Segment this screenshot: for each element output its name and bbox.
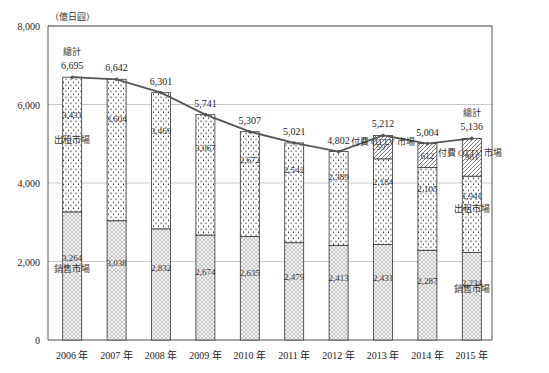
rental-market-annotation-2015: 出租市場 [454,203,490,214]
total-marker [70,75,74,79]
segment-value-label: 3,431 [62,110,82,120]
bar-segment [196,235,215,340]
y-tick-label: 4,000 [18,178,41,189]
total-marker [204,113,208,117]
total-value-label: 6,642 [105,62,128,73]
bar-segment [374,245,393,340]
segment-value-label: 3,604 [106,114,127,124]
total-value-label: 5,136 [461,121,484,132]
rental-market-annotation: 出租市場 [54,134,90,145]
total-marker [248,130,252,134]
bar-segment [329,152,348,246]
total-value-label: 5,021 [283,126,306,137]
bar-segment [107,221,126,340]
y-tick-label: 2,000 [18,257,41,268]
segment-value-label: 2,832 [151,263,171,273]
y-tick-label: 8,000 [18,21,41,32]
total-marker [426,142,430,146]
segment-value-label: 2,413 [328,273,349,283]
total-value-label: 5,004 [416,127,439,138]
segment-value-label: 3,067 [195,143,216,153]
bar-segment [418,168,437,251]
x-tick-label: 2010 年 [234,349,267,361]
x-tick-label: 2006 年 [56,349,89,361]
segment-value-label: 2,287 [417,276,438,286]
x-tick-label: 2014 年 [411,349,444,361]
bar-segment [63,212,82,340]
segment-value-label: 2,674 [195,267,216,277]
bar-segment [374,159,393,245]
total-value-label: 6,695 [61,60,84,71]
bar-segment [462,176,481,252]
x-axis: 2006 年2007 年2008 年2009 年2010 年2011 年2012… [56,349,488,361]
segment-value-label: 2,542 [284,165,304,175]
bar-segment [285,243,304,340]
segment-value-label: 1,941 [462,191,482,201]
bar-segment [462,252,481,340]
total-annotation: 總計 [63,46,81,57]
total-value-label: 5,212 [372,118,395,129]
segment-value-label: 2,184 [373,177,394,187]
stacked-bar-chart: （億日圓） 02,0004,0006,0008,000 3,2643,4313,… [0,0,549,373]
segment-value-label: 612 [421,151,435,161]
ottv-annotation-2015: 付費 OTTV 市場 [438,147,502,158]
bar-segment [196,115,215,235]
segment-value-label: 3,469 [151,126,172,136]
ottv-annotation-2013: 付費 OTTV 市場 [351,136,415,147]
segment-value-label: 2,105 [417,184,438,194]
bar-segment [329,245,348,340]
total-value-label: 4,802 [327,135,350,146]
x-tick-label: 2007 年 [100,349,133,361]
bar-segment [107,79,126,220]
y-tick-label: 0 [35,335,40,346]
unit-label: （億日圓） [50,11,95,22]
bar-segment [240,237,259,340]
segment-value-label: 2,672 [240,155,260,165]
total-marker [159,91,163,95]
segment-value-label: 3,264 [62,253,83,263]
x-tick-label: 2013 年 [367,349,400,361]
x-tick-label: 2009 年 [189,349,222,361]
y-tick-label: 6,000 [18,100,41,111]
sales-market-annotation-2015: 銷售市場 [454,283,490,294]
total-marker [115,78,119,82]
bar-segment [152,229,171,340]
bar-segment [240,132,259,237]
segment-value-label: 2,389 [328,172,349,182]
x-tick-label: 2012 年 [322,349,355,361]
total-value-label: 6,301 [150,76,173,87]
segment-value-label: 3,038 [106,258,127,268]
total-marker [337,150,341,154]
total-value-label: 5,307 [239,115,262,126]
x-tick-label: 2011 年 [278,349,310,361]
bar-segment [285,143,304,243]
sales-market-annotation: 銷售市場 [54,263,90,274]
total-marker [470,137,474,141]
total-annotation-2015: 總計 [463,107,481,118]
segment-value-label: 2,431 [373,273,393,283]
x-tick-label: 2015 年 [456,349,489,361]
bars: 3,2643,4313,0383,6042,8323,4692,6743,067… [62,77,482,340]
segment-value-label: 2,479 [284,272,305,282]
segment-value-label: 2,635 [240,268,261,278]
total-value-label: 5,741 [194,98,217,109]
total-marker [292,141,296,145]
bar-segment [418,250,437,340]
bar-segment [152,93,171,229]
x-tick-label: 2008 年 [145,349,178,361]
